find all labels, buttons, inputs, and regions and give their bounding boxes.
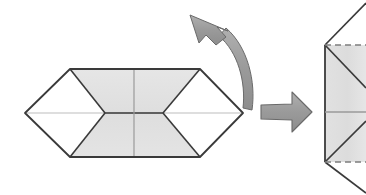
origami-diagram-svg bbox=[0, 0, 366, 195]
right-shaded-body bbox=[325, 45, 366, 162]
diagram-canvas bbox=[0, 0, 366, 195]
left-figure-group bbox=[25, 69, 243, 157]
